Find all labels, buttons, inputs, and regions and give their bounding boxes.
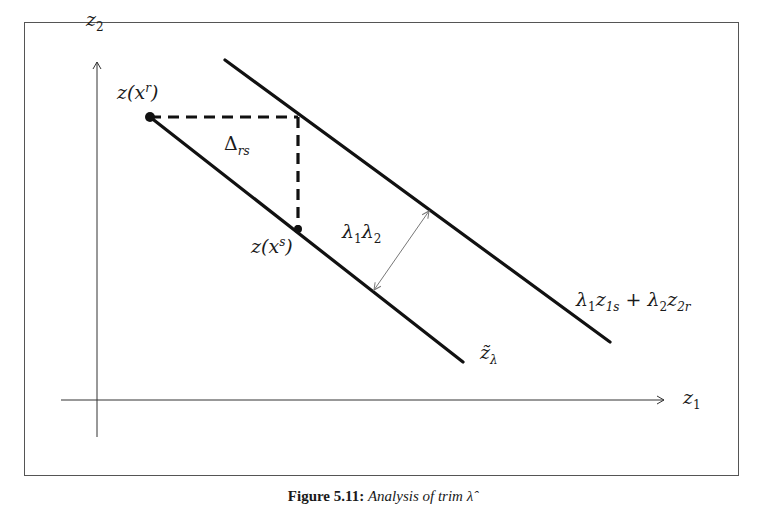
lambda2-subscript: 2 (374, 232, 382, 246)
upper-lambda1-sub: 1 (588, 300, 596, 314)
delta-label: Δrs (224, 134, 250, 157)
lower-line-label: z̃λ (480, 343, 498, 366)
lambda1-symbol: λ (342, 220, 354, 242)
upper-plus: + (620, 288, 648, 310)
y-axis-subscript: 2 (96, 20, 104, 34)
x-axis-label: z1 (683, 388, 701, 411)
upper-z1s: z (596, 288, 606, 310)
point-r (145, 112, 155, 122)
x-axis-symbol: z (683, 386, 693, 408)
upper-z2r-sub: 2r (677, 300, 690, 314)
delta-subscript: rs (238, 144, 250, 158)
point-r-label: z(xr) (117, 82, 158, 102)
y-axis-symbol: z (86, 8, 96, 30)
point-s-base: z(x (251, 235, 279, 257)
lambda1-subscript: 1 (354, 232, 362, 246)
y-axis-label: z2 (86, 10, 104, 33)
lower-line (150, 117, 463, 362)
upper-lambda2: λ (648, 288, 660, 310)
caption-number: Figure 5.11: (288, 488, 364, 504)
distance-arrow (374, 211, 429, 290)
point-r-close: ) (151, 81, 158, 103)
figure-caption: Figure 5.11: Analysis of trim λ̂ (0, 488, 761, 505)
point-r-base: z(x (117, 81, 145, 103)
z-tilde-subscript: λ (490, 353, 498, 367)
upper-line (225, 60, 610, 342)
distance-label: λ1λ2 (342, 222, 381, 245)
delta-symbol: Δ (224, 132, 238, 154)
point-s (294, 225, 302, 233)
upper-z1s-sub: 1s (606, 300, 620, 314)
caption-text: Analysis of trim λ̂ (368, 488, 473, 504)
x-axis-subscript: 1 (693, 398, 701, 412)
point-s-close: ) (285, 235, 292, 257)
upper-z2r: z (667, 288, 677, 310)
lambda2-symbol: λ (362, 220, 374, 242)
point-s-label: z(xs) (251, 236, 293, 256)
z-tilde-symbol: z̃ (480, 341, 490, 363)
upper-lambda1: λ (576, 288, 588, 310)
upper-line-label: λ1z1s + λ2z2r (576, 290, 691, 313)
